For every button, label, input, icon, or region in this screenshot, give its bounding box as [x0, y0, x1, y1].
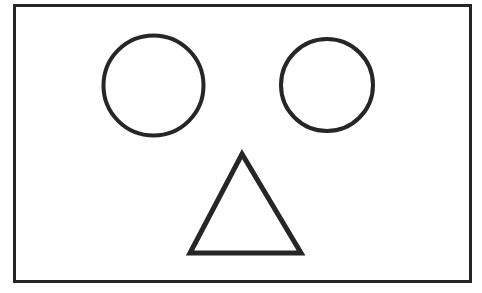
rectangle-frame: [15, 6, 471, 282]
shapes-drawing: [0, 0, 482, 293]
circle-right: [281, 39, 373, 131]
circle-left: [104, 36, 204, 136]
triangle: [190, 154, 301, 253]
figure-canvas: [0, 0, 482, 293]
